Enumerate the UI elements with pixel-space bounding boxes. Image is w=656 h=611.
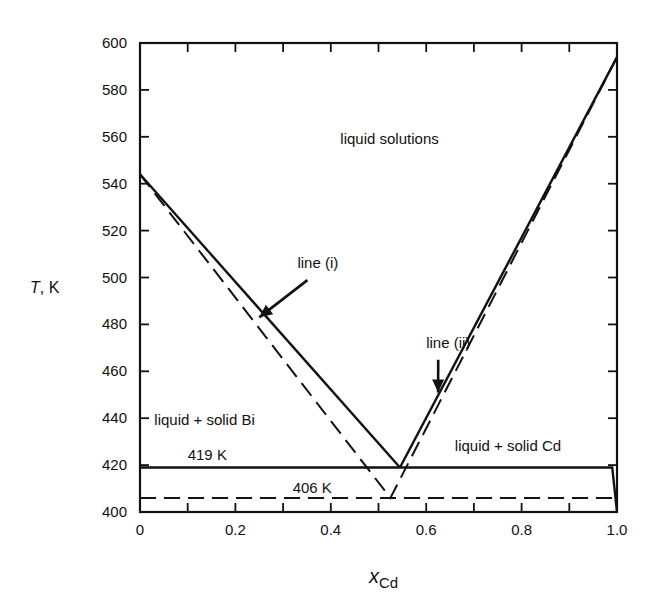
series-line-ii- xyxy=(400,57,617,467)
y-tick-label: 580 xyxy=(102,81,127,98)
y-tick-label: 540 xyxy=(102,175,127,192)
y-tick-label: 560 xyxy=(102,128,127,145)
x-axis-title: xCd xyxy=(368,565,398,591)
y-axis-title: T, K xyxy=(30,279,60,296)
x-tick-label: 1.0 xyxy=(607,521,628,538)
annotation-label: line (i) xyxy=(297,254,338,271)
annotation-label: liquid + solid Cd xyxy=(455,437,561,454)
annotations: liquid solutionsline (i)line (ii)liquid … xyxy=(154,130,561,496)
y-tick-label: 520 xyxy=(102,222,127,239)
x-axis-ticks: 00.20.40.60.81.0 xyxy=(136,43,628,538)
x-tick-label: 0.4 xyxy=(320,521,341,538)
x-tick-label: 0.2 xyxy=(225,521,246,538)
x-tick-label: 0.8 xyxy=(511,521,532,538)
y-tick-label: 420 xyxy=(102,456,127,473)
annotation-label: line (ii) xyxy=(426,334,470,351)
annotation-label: liquid solutions xyxy=(340,130,438,147)
y-tick-label: 460 xyxy=(102,362,127,379)
annotation-label: 406 K xyxy=(293,479,332,496)
y-tick-label: 400 xyxy=(102,503,127,520)
y-tick-label: 480 xyxy=(102,315,127,332)
series-ideal-liquidus-dashed- xyxy=(140,57,617,498)
phase-diagram: 00.20.40.60.81.0 40042044046048050052054… xyxy=(0,0,656,611)
annotation-label: 419 K xyxy=(188,446,227,463)
x-tick-label: 0.6 xyxy=(416,521,437,538)
y-tick-label: 600 xyxy=(102,34,127,51)
x-tick-label: 0 xyxy=(136,521,144,538)
annotation-label: liquid + solid Bi xyxy=(154,411,254,428)
y-tick-label: 500 xyxy=(102,269,127,286)
y-tick-label: 440 xyxy=(102,409,127,426)
